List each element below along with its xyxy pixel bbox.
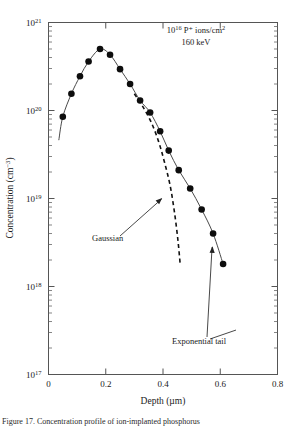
- data-point: [107, 51, 114, 58]
- data-point: [187, 185, 194, 192]
- data-point: [97, 46, 104, 53]
- exponential-tail-arrow-head: [210, 246, 215, 253]
- y-tick-label: 1019: [26, 192, 42, 204]
- data-point: [68, 90, 75, 97]
- x-tick-label: 0.6: [215, 379, 227, 389]
- y-tick-label: 1020: [26, 104, 42, 116]
- data-point: [117, 66, 124, 73]
- x-tick-label: 0: [46, 379, 51, 389]
- y-tick-label: 1018: [26, 280, 42, 292]
- data-point: [127, 81, 134, 88]
- y-axis-title-group: Concentration (cm−3): [4, 157, 17, 238]
- y-axis-title: Concentration (cm−3): [4, 157, 17, 238]
- data-point: [157, 128, 164, 135]
- concentration-depth-chart: 10171018101910201021 00.20.40.60.8 Depth…: [0, 0, 301, 426]
- figure-caption: Figure 17. Concentration profile of ion-…: [0, 417, 301, 426]
- implant-conditions-line2: 160 keV: [181, 37, 211, 47]
- x-tick-label: 0.4: [157, 379, 169, 389]
- measured-profile-curve: [59, 49, 223, 264]
- data-point-markers: [60, 46, 227, 268]
- data-point: [77, 73, 84, 80]
- x-axis-title: Depth (µm): [141, 396, 186, 407]
- data-point: [198, 206, 205, 213]
- implant-conditions-line1: 1016 P⁺ ions/cm2: [167, 24, 225, 36]
- data-point: [137, 97, 144, 104]
- figure-container: 10171018101910201021 00.20.40.60.8 Depth…: [0, 0, 301, 426]
- gaussian-leader-line: [120, 199, 162, 236]
- data-point: [210, 230, 217, 237]
- exponential-tail-leader-line: [207, 247, 212, 337]
- exponential-tail-label: Exponential tail: [172, 336, 227, 346]
- data-point: [165, 147, 172, 154]
- data-point: [60, 113, 67, 120]
- x-tick-label: 0.2: [100, 379, 111, 389]
- data-point: [175, 167, 182, 174]
- data-point: [220, 261, 227, 268]
- y-tick-label: 1021: [26, 16, 42, 28]
- x-axis-tick-labels: 00.20.40.60.8: [46, 379, 283, 389]
- data-point: [147, 109, 154, 116]
- gaussian-label: Gaussian: [92, 233, 124, 243]
- y-tick-label: 1017: [26, 368, 42, 380]
- data-point: [85, 58, 92, 65]
- y-axis-tick-labels: 10171018101910201021: [26, 16, 42, 380]
- x-axis-ticks: [106, 23, 221, 375]
- gaussian-fit-curve: [134, 94, 180, 264]
- x-tick-label: 0.8: [272, 379, 284, 389]
